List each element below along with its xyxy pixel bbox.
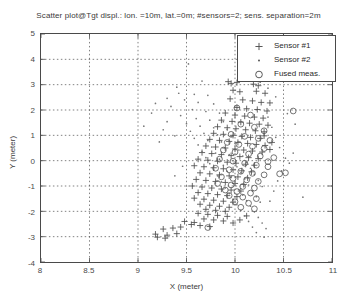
y-tick-label: -1: [8, 182, 35, 191]
legend-label: Sensor #1: [274, 41, 310, 50]
y-tick-label: -3: [8, 233, 35, 242]
plus-marker-icon: [248, 39, 270, 54]
chart-legend: Sensor #1Sensor #2Fused meas.: [237, 35, 336, 82]
y-tick-label: -4: [8, 259, 35, 268]
legend-label: Sensor #2: [274, 55, 310, 64]
legend-label: Fused meas.: [274, 69, 320, 78]
y-axis-label: Y (meter): [8, 123, 17, 183]
figure-canvas: Scatter plot@Tgt displ.: lon. =10m, lat.…: [0, 0, 357, 308]
legend-item[interactable]: Sensor #1: [238, 39, 337, 54]
y-tick-label: 5: [8, 29, 35, 38]
circle-marker-icon: [248, 67, 270, 82]
y-tick-label: 3: [8, 80, 35, 89]
x-tick-label: 9.5: [181, 266, 192, 275]
x-tick-label: 8: [38, 266, 42, 275]
dot-marker-icon: [248, 53, 270, 68]
x-tick-label: 11: [329, 266, 337, 275]
x-tick-label: 10.5: [276, 266, 292, 275]
x-tick-label: 8.5: [83, 266, 94, 275]
chart-title: Scatter plot@Tgt displ.: lon. =10m, lat.…: [0, 11, 357, 20]
y-tick-label: 2: [8, 105, 35, 114]
y-tick-label: 4: [8, 54, 35, 63]
x-tick-label: 9: [135, 266, 139, 275]
x-axis-label: X (meter): [40, 282, 333, 291]
legend-item[interactable]: Sensor #2: [238, 53, 337, 68]
x-tick-label: 10: [231, 266, 240, 275]
legend-item[interactable]: Fused meas.: [238, 67, 337, 82]
y-tick-label: -2: [8, 207, 35, 216]
